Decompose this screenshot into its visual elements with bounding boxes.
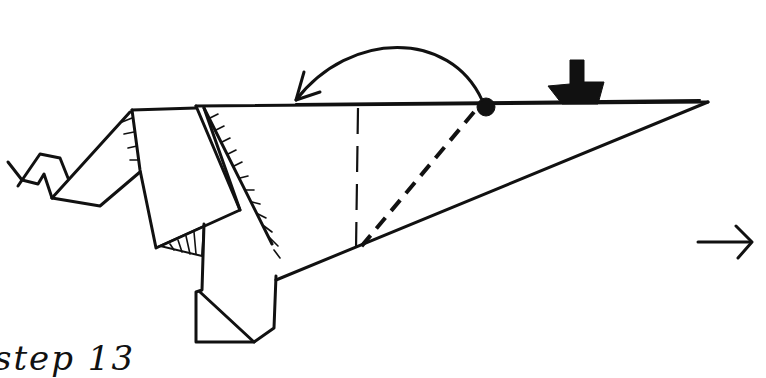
elephant-body bbox=[196, 100, 708, 280]
vertical-valley-fold bbox=[356, 108, 358, 250]
pivot-dot-icon bbox=[477, 98, 495, 116]
step-label: step 13 bbox=[0, 338, 135, 378]
fold-lines bbox=[356, 108, 474, 250]
diagonal-valley-fold bbox=[360, 112, 474, 248]
elephant-leg bbox=[196, 224, 276, 342]
elephant-trunk bbox=[8, 112, 140, 206]
push-arrow-icon bbox=[548, 60, 604, 104]
elephant-head bbox=[122, 108, 240, 256]
next-step-arrow-icon bbox=[698, 226, 752, 258]
curved-fold-arrow-icon bbox=[296, 48, 482, 101]
